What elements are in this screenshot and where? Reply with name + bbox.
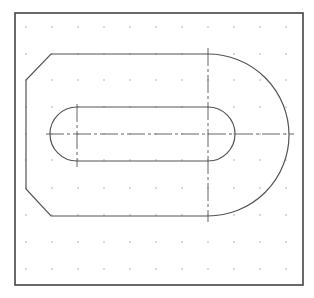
grid-dot	[51, 79, 52, 80]
grid-dot	[129, 79, 130, 80]
grid-dot	[155, 79, 156, 80]
grid-dot	[181, 79, 182, 80]
grid-dot	[259, 106, 260, 107]
grid-dot	[285, 214, 286, 215]
grid-dot	[51, 268, 52, 269]
grid-dot	[129, 187, 130, 188]
grid-dot	[285, 241, 286, 242]
grid-dot	[207, 241, 208, 242]
grid-dot	[77, 268, 78, 269]
grid-dot	[155, 268, 156, 269]
grid-dot	[259, 159, 260, 160]
grid-dot	[233, 241, 234, 242]
grid-dot	[285, 106, 286, 107]
grid-dot	[181, 187, 182, 188]
grid-dot	[155, 187, 156, 188]
grid-dot	[77, 26, 78, 27]
grid-dot	[259, 214, 260, 215]
grid-dot	[233, 159, 234, 160]
grid-dot	[259, 268, 260, 269]
grid-dot	[181, 268, 182, 269]
grid-dot	[259, 26, 260, 27]
grid-dot	[233, 53, 234, 54]
grid-dot	[285, 268, 286, 269]
cad-drawing-canvas	[0, 0, 314, 298]
grid-dot	[25, 26, 26, 27]
grid-dot	[51, 241, 52, 242]
grid-dot	[103, 26, 104, 27]
grid-dot	[233, 79, 234, 80]
grid-dot	[155, 241, 156, 242]
grid-dot	[103, 268, 104, 269]
grid-dot	[77, 241, 78, 242]
grid-dot	[25, 268, 26, 269]
grid-dot	[259, 187, 260, 188]
grid-dot	[25, 53, 26, 54]
grid-dot	[233, 26, 234, 27]
grid-dot	[285, 26, 286, 27]
grid-dot	[207, 268, 208, 269]
grid-dot	[25, 241, 26, 242]
grid-dot	[51, 159, 52, 160]
grid-dot	[77, 79, 78, 80]
grid-dot	[233, 187, 234, 188]
grid-dot	[259, 53, 260, 54]
grid-dot	[259, 241, 260, 242]
grid-dot	[233, 106, 234, 107]
grid-dot	[129, 26, 130, 27]
grid-dot	[103, 241, 104, 242]
grid-dot	[25, 214, 26, 215]
grid-dot	[51, 26, 52, 27]
grid-dot	[285, 53, 286, 54]
grid-dot	[51, 106, 52, 107]
part-outline	[26, 54, 289, 216]
grid-dot	[285, 79, 286, 80]
grid-dot	[259, 79, 260, 80]
grid-dot	[103, 79, 104, 80]
grid-dot	[181, 241, 182, 242]
grid-dot	[259, 133, 260, 134]
grid-dot	[103, 187, 104, 188]
grid-dot	[129, 241, 130, 242]
cad-drawing	[0, 0, 314, 298]
grid-dot	[155, 26, 156, 27]
grid-dot	[233, 214, 234, 215]
grid-dot	[51, 187, 52, 188]
grid-dot	[233, 268, 234, 269]
grid-dots	[25, 26, 286, 269]
grid-dot	[181, 26, 182, 27]
grid-dot	[77, 187, 78, 188]
grid-dot	[285, 187, 286, 188]
grid-dot	[129, 268, 130, 269]
grid-dot	[207, 26, 208, 27]
